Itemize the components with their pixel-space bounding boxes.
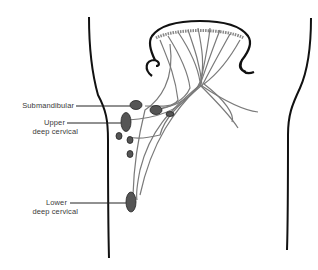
- lymph-vessels: [128, 28, 258, 200]
- label-lower-line1: Lower: [20, 198, 78, 207]
- label-upper-deep-cervical: Upper deep cervical: [20, 118, 78, 136]
- submandibular-node-1: [130, 101, 142, 110]
- submandibular-node-2: [150, 106, 162, 115]
- small-node-1: [116, 133, 122, 140]
- label-lower-line2: deep cervical: [20, 207, 78, 216]
- submandibular-node-3: [166, 112, 174, 117]
- label-submandibular: Submandibular: [10, 101, 74, 110]
- lymph-nodes: [116, 101, 174, 213]
- label-lower-deep-cervical: Lower deep cervical: [20, 198, 78, 216]
- upper-deep-cervical-node: [121, 113, 131, 132]
- small-node-2: [127, 137, 133, 144]
- small-node-3: [127, 151, 133, 158]
- neck-outline-left: [89, 17, 109, 258]
- label-upper-line1: Upper: [20, 118, 78, 127]
- lower-deep-cervical-node: [126, 192, 136, 212]
- label-upper-line2: deep cervical: [20, 127, 78, 136]
- neck-outline-right: [287, 18, 311, 250]
